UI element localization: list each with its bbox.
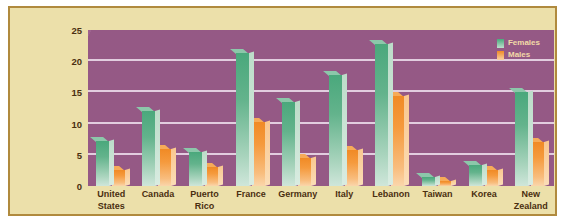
bar-front-face: [96, 141, 109, 186]
bar-side-face: [528, 91, 533, 186]
y-tick-0: 0: [56, 181, 82, 192]
bar-males-canada: [158, 149, 171, 186]
bar-group: [414, 30, 461, 186]
bar-side-face: [358, 148, 363, 186]
bar-males-germany: [298, 158, 311, 186]
bar-side-face: [125, 168, 130, 186]
bar-front-face: [515, 92, 528, 186]
legend-item-males: Males: [497, 50, 540, 60]
legend-swatch-males-icon: [497, 51, 504, 60]
bar-side-face: [544, 141, 549, 186]
bar-side-face: [218, 166, 223, 186]
x-tick-france: France: [228, 189, 275, 201]
y-tick-25: 25: [56, 25, 82, 36]
bar-females-united-states: [96, 141, 109, 186]
bar-front-face: [142, 111, 155, 186]
y-tick-15: 15: [56, 87, 82, 98]
y-tick-10: 10: [56, 119, 82, 130]
x-tick-lebanon: Lebanon: [368, 189, 415, 201]
bar-side-face: [295, 100, 300, 186]
bar-group: [228, 30, 275, 186]
x-tick-canada: Canada: [135, 189, 182, 201]
x-tick-new-zealand: New Zealand: [507, 189, 554, 212]
bar-females-puerto-rico: [189, 152, 202, 186]
bar-side-face: [498, 169, 503, 186]
bar-front-face: [282, 102, 295, 186]
bar-females-germany: [282, 102, 295, 186]
bar-group: [88, 30, 135, 186]
bar-side-face: [388, 42, 393, 186]
bar-side-face: [311, 156, 316, 186]
x-tick-united-states: United States: [88, 189, 135, 212]
bar-group: [274, 30, 321, 186]
bar-front-face: [158, 149, 171, 186]
x-tick-germany: Germany: [274, 189, 321, 201]
bar-front-face: [375, 44, 388, 186]
bar-side-face: [404, 94, 409, 186]
bar-females-korea: [469, 165, 482, 186]
x-axis-tick-labels: United StatesCanadaPuerto RicoFranceGerm…: [88, 189, 554, 219]
bar-front-face: [531, 142, 544, 186]
bar-males-new-zealand: [531, 142, 544, 186]
bar-side-face: [202, 151, 207, 186]
bar-front-face: [189, 152, 202, 186]
bar-front-face: [298, 158, 311, 186]
chart-screenshot: Percentage of Adults Experiencing Depres…: [0, 0, 565, 222]
y-tick-20: 20: [56, 56, 82, 67]
bar-males-lebanon: [391, 96, 404, 186]
legend: Females Males: [497, 38, 540, 62]
bar-side-face: [342, 74, 347, 186]
bar-females-italy: [329, 75, 342, 186]
bar-side-face: [435, 175, 440, 186]
bar-side-face: [265, 120, 270, 186]
legend-label-females: Females: [508, 38, 540, 48]
bar-females-taiwan: [422, 177, 435, 186]
bar-front-face: [391, 96, 404, 186]
x-tick-puerto-rico: Puerto Rico: [181, 189, 228, 212]
bar-side-face: [451, 180, 456, 186]
bar-group: [181, 30, 228, 186]
legend-swatch-females-icon: [497, 39, 504, 48]
y-axis-tick-labels: 0510152025: [54, 30, 82, 186]
legend-item-females: Females: [497, 38, 540, 48]
bar-side-face: [482, 163, 487, 186]
bar-front-face: [422, 177, 435, 186]
x-tick-italy: Italy: [321, 189, 368, 201]
bar-side-face: [109, 140, 114, 186]
bar-side-face: [249, 52, 254, 186]
legend-label-males: Males: [508, 50, 530, 60]
bar-group: [321, 30, 368, 186]
bar-females-new-zealand: [515, 92, 528, 186]
y-tick-5: 5: [56, 150, 82, 161]
bar-front-face: [469, 165, 482, 186]
bar-side-face: [171, 147, 176, 186]
x-tick-taiwan: Taiwan: [414, 189, 461, 201]
bar-front-face: [236, 53, 249, 186]
bar-group: [368, 30, 415, 186]
bar-females-canada: [142, 111, 155, 186]
bar-side-face: [155, 110, 160, 186]
bar-group: [135, 30, 182, 186]
x-tick-korea: Korea: [461, 189, 508, 201]
chart-panel: Percentage of Adults Experiencing Depres…: [8, 6, 557, 216]
bar-front-face: [329, 75, 342, 186]
bar-females-france: [236, 53, 249, 186]
bar-females-lebanon: [375, 44, 388, 186]
plot-area: Females Males: [88, 30, 554, 186]
